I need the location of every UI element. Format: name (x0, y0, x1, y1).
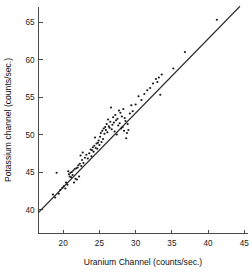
data-point (161, 73, 163, 75)
data-point (112, 116, 114, 118)
data-point (122, 108, 124, 110)
data-point (76, 178, 78, 180)
y-tick-label: 65 (25, 18, 35, 27)
data-point (216, 19, 218, 21)
axes-group (39, 7, 249, 234)
data-point (79, 154, 81, 156)
data-point (132, 110, 134, 112)
data-point (143, 93, 145, 95)
x-tick-label: 25 (95, 239, 105, 248)
regression-line (39, 6, 241, 212)
data-point (79, 163, 81, 165)
data-point (127, 129, 129, 131)
data-point (84, 157, 86, 159)
data-point (149, 87, 151, 89)
data-point (101, 130, 103, 132)
y-tick-label: 40 (25, 206, 35, 215)
regression-line-segment (39, 6, 241, 212)
data-point (93, 145, 95, 147)
data-point (108, 127, 110, 129)
data-point (117, 124, 119, 126)
data-points (52, 19, 218, 199)
data-point (103, 133, 105, 135)
data-point (125, 137, 127, 139)
data-point (102, 138, 104, 140)
data-point (107, 118, 109, 120)
data-point (80, 165, 82, 167)
data-point (52, 193, 54, 195)
data-point (82, 151, 84, 153)
data-point (77, 166, 79, 168)
y-tick-label: 45 (25, 168, 35, 177)
y-tick-label: 55 (25, 93, 35, 102)
data-point (98, 139, 100, 141)
data-point (97, 142, 99, 144)
data-point (111, 128, 113, 130)
data-point (121, 126, 123, 128)
x-axis-title: Uranium Channel (counts/sec.) (84, 257, 203, 267)
data-point (104, 126, 106, 128)
data-point (90, 155, 92, 157)
y-axis-title: Potassium channel (counts/sec.) (3, 58, 13, 182)
data-point (140, 99, 142, 101)
data-point (92, 151, 94, 153)
data-point (111, 124, 113, 126)
data-point (155, 78, 157, 80)
data-point (158, 76, 160, 78)
data-point (100, 141, 102, 143)
x-tick-label: 35 (167, 239, 177, 248)
data-point (159, 94, 161, 96)
data-point (110, 106, 112, 108)
data-point (119, 112, 121, 114)
data-point (127, 123, 129, 125)
y-axis-ticks: 404550556065 (25, 18, 42, 215)
x-tick-label: 20 (59, 239, 69, 248)
data-point (126, 132, 128, 134)
data-point (96, 148, 98, 150)
data-point (58, 193, 60, 195)
data-point (71, 174, 73, 176)
data-point (184, 51, 186, 53)
data-point (113, 121, 115, 123)
data-point (130, 104, 132, 106)
data-point (106, 123, 108, 125)
x-tick-label: 40 (204, 239, 214, 248)
data-point (100, 132, 102, 134)
data-point (82, 162, 84, 164)
y-tick-label: 50 (25, 131, 35, 140)
data-point (66, 184, 68, 186)
y-tick-label: 60 (25, 56, 35, 65)
data-point (146, 89, 148, 91)
data-point (99, 136, 101, 138)
plot-area: 202530354045 404550556065 Uranium Channe… (0, 0, 251, 272)
x-tick-label: 45 (240, 239, 250, 248)
data-point (109, 121, 111, 123)
data-point (65, 181, 67, 183)
data-point (116, 118, 118, 120)
data-point (54, 196, 56, 198)
data-point (172, 67, 174, 69)
data-point (116, 133, 118, 135)
data-point (135, 103, 137, 105)
data-point (119, 122, 121, 124)
data-point (87, 157, 89, 159)
data-point (124, 117, 126, 119)
data-point (78, 175, 80, 177)
data-point (114, 114, 116, 116)
data-point (106, 131, 108, 133)
data-point (123, 130, 125, 132)
data-point (152, 82, 154, 84)
x-tick-label: 30 (131, 239, 141, 248)
data-point (129, 112, 131, 114)
data-point (70, 176, 72, 178)
data-point (105, 129, 107, 131)
scatter-chart-figure: 202530354045 404550556065 Uranium Channe… (0, 0, 251, 272)
data-point (67, 170, 69, 172)
data-point (94, 136, 96, 138)
data-point (59, 189, 61, 191)
data-point (98, 144, 100, 146)
data-point (63, 185, 65, 187)
data-point (137, 95, 139, 97)
data-point (85, 154, 87, 156)
data-point (88, 152, 90, 154)
